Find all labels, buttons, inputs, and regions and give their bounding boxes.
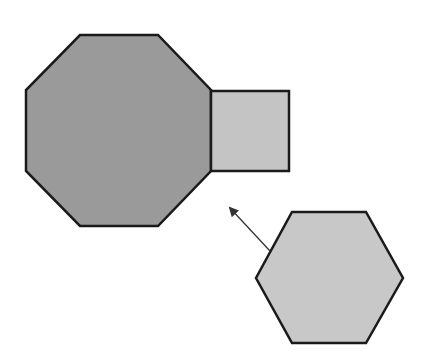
octagon-shape	[26, 35, 211, 226]
arrow	[230, 208, 270, 251]
diagram-canvas	[0, 0, 428, 362]
square-shape	[211, 91, 289, 171]
hexagon-shape	[256, 212, 403, 343]
